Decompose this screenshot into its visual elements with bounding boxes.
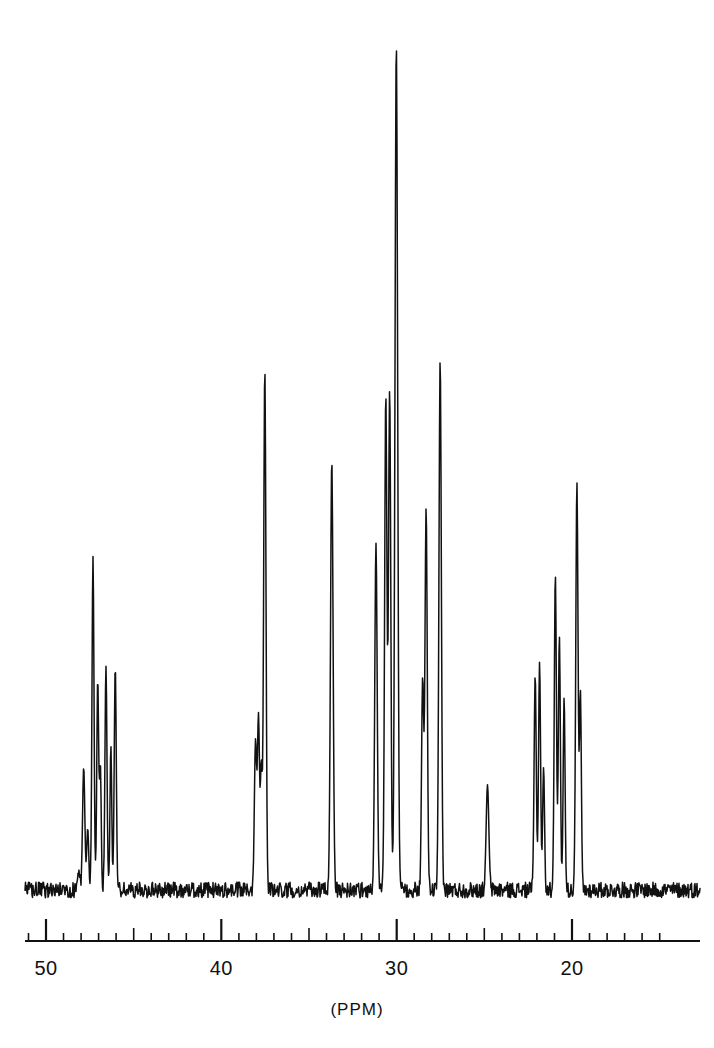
spectrum-trace-group (25, 51, 700, 898)
axis-unit-label: (PPM) (330, 1000, 383, 1019)
axis-tick-label: 50 (34, 957, 57, 979)
axis-ticks (29, 919, 660, 941)
axis-tick-label: 40 (210, 957, 233, 979)
axis-group: 50403020 (25, 919, 700, 979)
spectrum-canvas: 50403020 (PPM) (0, 0, 714, 1048)
axis-tick-labels: 50403020 (34, 957, 583, 979)
axis-tick-label: 30 (385, 957, 408, 979)
nmr-spectrum-figure: 50403020 (PPM) (0, 0, 714, 1048)
axis-tick-label: 20 (560, 957, 583, 979)
spectrum-trace (25, 51, 700, 898)
